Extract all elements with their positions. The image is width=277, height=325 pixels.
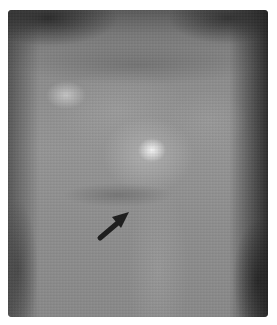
radiograph-image xyxy=(8,10,268,317)
pointer-arrow-icon xyxy=(8,10,268,317)
